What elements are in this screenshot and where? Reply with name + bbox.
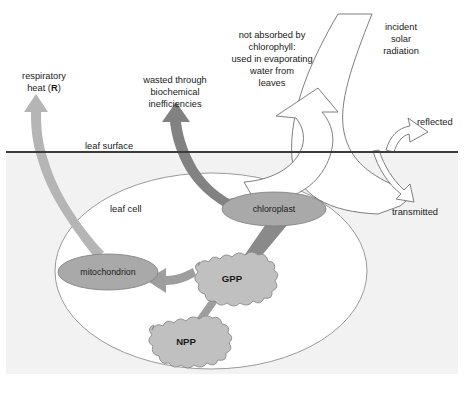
gpp-label: GPP [222,273,243,284]
incident-line-2: solar [391,34,411,44]
chloroplast-label: chloroplast [253,204,296,214]
leaf-surface-label: leaf surface [85,141,133,151]
not-absorbed-line-3: used in evaporating [231,54,312,64]
leaf-cell-label: leaf cell [110,204,142,214]
wasted-line-3: inefficiencies [148,99,201,109]
transmitted-label: transmitted [392,207,438,217]
respiratory-heat-line-2: heat (R) [27,83,61,93]
not-absorbed-line-4: water from [249,66,294,76]
wasted-line-2: biochemical [150,87,199,97]
respiratory-heat-text: heat ( [27,83,52,93]
mitochondrion-label: mitochondrion [80,267,135,277]
wasted-energy-label: wasted through biochemical inefficiencie… [142,75,207,109]
not-absorbed-line-5: leaves [259,78,286,88]
respiratory-heat-paren: ) [58,83,61,93]
wasted-line-1: wasted through [142,75,207,85]
respiratory-heat-line-1: respiratory [22,71,66,81]
node-mitochondrion[interactable]: mitochondrion [58,254,158,290]
reflected-label: reflected [417,117,453,127]
leaf-energy-flow-diagram: chloroplast mitochondrion GPP NPP incide… [0,0,466,402]
diagram-canvas: chloroplast mitochondrion GPP NPP incide… [0,0,466,402]
not-absorbed-line-2: chlorophyll: [248,42,295,52]
incident-line-1: incident [385,22,417,32]
not-absorbed-line-1: not absorbed by [239,30,306,40]
npp-label: NPP [176,336,196,347]
incident-line-3: radiation [383,46,419,56]
node-chloroplast[interactable]: chloroplast [222,192,326,226]
